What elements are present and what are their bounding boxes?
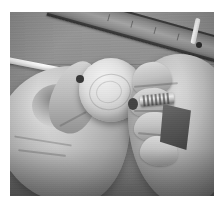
ruler-mark	[107, 14, 110, 21]
screw-thread	[146, 95, 149, 106]
photograph	[10, 12, 214, 196]
screw-thread	[166, 93, 169, 104]
ball-side-hole	[76, 75, 84, 83]
ruler-mark	[177, 33, 180, 40]
fingernail	[128, 98, 138, 110]
lower-shadow	[10, 148, 214, 196]
left-hand-crease	[14, 135, 72, 146]
screw-thread	[162, 93, 165, 104]
screenshot-root	[0, 0, 224, 208]
screw-thread	[143, 95, 146, 106]
screw-thread	[150, 95, 153, 106]
ruler-mark	[130, 21, 133, 28]
caption	[10, 197, 214, 206]
screw-thread	[158, 94, 161, 105]
pencil-tip	[196, 42, 202, 48]
ruler-mark	[154, 27, 157, 34]
screw-thread	[154, 94, 157, 105]
